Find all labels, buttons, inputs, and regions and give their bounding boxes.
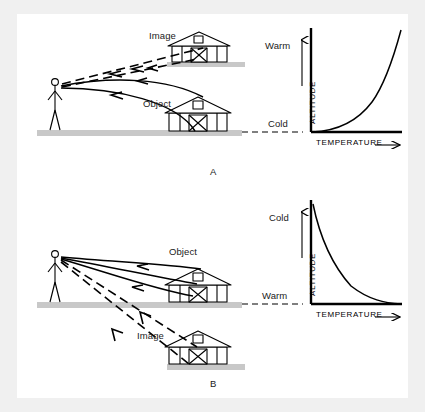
sightline-arrowhead-2-b (112, 329, 123, 341)
figure-root: Image Object Warm Cold ALTITUDE TEMPERAT… (0, 0, 425, 412)
chart-a-curve (312, 30, 401, 132)
chart-a-y-axis-label: ALTITUDE (308, 81, 317, 124)
ray-object-upper-b (61, 257, 201, 269)
chart-b-x-axis-label: TEMPERATURE (316, 310, 382, 319)
chart-b-y-axis-label: ALTITUDE (308, 253, 317, 296)
chart-a-x-axis-label: TEMPERATURE (316, 138, 382, 147)
barn-object-b (165, 269, 231, 302)
panel-a: Image Object Warm Cold ALTITUDE TEMPERAT… (17, 14, 408, 206)
figure-canvas: Image Object Warm Cold ALTITUDE TEMPERAT… (17, 14, 408, 398)
barn-image-a (168, 32, 230, 62)
chart-b (302, 200, 402, 317)
chart-a (302, 28, 402, 145)
observer-figure (48, 79, 62, 130)
chart-b-label-cold: Cold (269, 212, 289, 223)
panel-a-graphics (17, 14, 408, 206)
label-object-a: Object (143, 98, 171, 109)
observer-figure-b (48, 251, 62, 302)
ray-arrowhead-lower-b (132, 285, 144, 291)
sightline-arrowhead-1-b (140, 312, 151, 324)
label-object-b: Object (169, 246, 197, 257)
panel-b: Object Image Cold Warm ALTITUDE TEMPERAT… (17, 192, 408, 384)
ground-strip-main-b (37, 302, 242, 308)
chart-a-label-cold: Cold (268, 118, 288, 129)
chart-b-curve (313, 204, 401, 304)
label-image-b: Image (137, 330, 164, 341)
ray-arrowhead-upper-b (137, 264, 149, 270)
barn-object-a (165, 97, 231, 131)
panel-a-letter: A (210, 166, 216, 177)
chart-a-label-warm: Warm (265, 40, 290, 51)
sightline-image-lower-a (62, 59, 197, 87)
sightline-arrowhead-2-a (132, 66, 144, 72)
barn-image-b (165, 331, 231, 364)
label-image-a: Image (149, 30, 176, 41)
panel-b-letter: B (210, 378, 216, 389)
chart-b-label-warm: Warm (262, 290, 287, 301)
panel-b-graphics (17, 192, 408, 384)
ground-strip-image-b (167, 364, 245, 370)
